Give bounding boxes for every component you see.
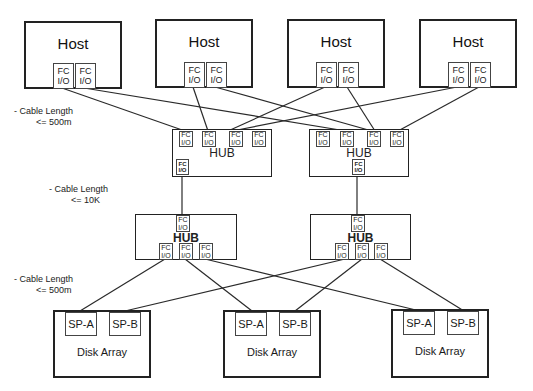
fc-io-port: FC I/O [184, 62, 205, 88]
host-1: Host FC I/O FC I/O [24, 21, 122, 89]
sp-b: SP-B [279, 312, 311, 336]
fc-io-port-uplink: FC I/O [176, 215, 190, 232]
sp-a: SP-A [65, 312, 97, 336]
fc-io-port: FC I/O [390, 131, 404, 147]
fc-io-port-uplink: FC I/O [351, 215, 365, 232]
cable-length-note-disks: - Cable Length <= 500m [14, 274, 73, 296]
cable-host2-hub2 [215, 87, 372, 131]
sp-a: SP-A [403, 311, 435, 335]
cable-hub4-disk2 [295, 259, 362, 311]
fc-io-port: FC I/O [229, 131, 243, 147]
fc-io-port: FC I/O [340, 131, 354, 147]
san-topology-diagram: Host FC I/O FC I/O Host FC I/O FC I/O Ho… [0, 0, 533, 391]
fc-io-port: FC I/O [316, 131, 330, 147]
fc-io-port-downlink: FC I/O [176, 159, 189, 175]
fc-io-port: FC I/O [202, 131, 216, 147]
upper-hub-1: FC I/O FC I/O FC I/O FC I/O HUB FC I/O [172, 129, 272, 177]
disk-array-3: SP-A SP-B Disk Array [391, 309, 489, 378]
host-label: Host [26, 35, 120, 52]
disk-array-1: SP-A SP-B Disk Array [53, 310, 151, 378]
fc-io-port: FC I/O [448, 62, 469, 88]
sp-b: SP-B [447, 311, 479, 335]
fc-io-port-downlink: FC I/O [352, 159, 365, 175]
upper-hub-2: FC I/O FC I/O FC I/O FC I/O HUB FC I/O [309, 129, 409, 177]
cable-host4-hub1 [232, 87, 457, 131]
hub-label: HUB [310, 146, 408, 160]
cable-hub3-disk1 [80, 259, 165, 311]
disk-array-label: Disk Array [55, 346, 149, 358]
fc-io-port: FC I/O [374, 243, 388, 260]
disk-array-label: Disk Array [393, 345, 487, 357]
sp-a: SP-A [235, 312, 267, 336]
host-label: Host [157, 33, 251, 50]
fc-io-port: FC I/O [53, 63, 74, 89]
lower-hub-1: FC I/O HUB FC I/O FC I/O FC I/O [135, 214, 237, 260]
cable-hub3-disk2 [185, 259, 252, 311]
cable-host3-hub2 [347, 87, 375, 131]
fc-io-port: FC I/O [316, 62, 337, 88]
fc-io-port: FC I/O [75, 63, 96, 89]
fc-io-port: FC I/O [252, 131, 266, 147]
cable-hub4-disk3 [380, 259, 464, 311]
fc-io-port: FC I/O [206, 62, 227, 88]
disk-array-label: Disk Array [225, 346, 319, 358]
fc-io-port: FC I/O [179, 131, 193, 147]
fc-io-port: FC I/O [335, 243, 349, 260]
hub-label: HUB [173, 146, 271, 160]
fc-io-port: FC I/O [470, 62, 491, 88]
sp-b: SP-B [109, 312, 141, 336]
fc-io-port: FC I/O [159, 243, 173, 260]
cable-length-note-hosts: - Cable Length <= 500m [14, 106, 73, 128]
cable-length-note-hubs: - Cable Length <= 10K [49, 184, 108, 206]
cable-host4-hub2 [398, 87, 479, 131]
fc-io-port: FC I/O [355, 243, 369, 260]
lower-hub-2: FC I/O HUB FC I/O FC I/O FC I/O [310, 214, 411, 260]
fc-io-port: FC I/O [179, 243, 193, 260]
fc-io-port: FC I/O [199, 243, 213, 260]
host-4: Host FC I/O FC I/O [419, 19, 517, 88]
fc-io-port: FC I/O [367, 131, 381, 147]
host-label: Host [421, 33, 515, 50]
host-3: Host FC I/O FC I/O [287, 19, 385, 88]
host-2: Host FC I/O FC I/O [155, 19, 253, 88]
disk-array-2: SP-A SP-B Disk Array [223, 310, 321, 378]
host-label: Host [289, 33, 383, 50]
cable-host2-hub1 [193, 87, 208, 131]
cable-host3-hub1 [228, 87, 325, 131]
fc-io-port: FC I/O [338, 62, 359, 88]
